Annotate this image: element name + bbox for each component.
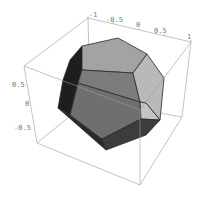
tick-top-4: 1 bbox=[187, 33, 191, 41]
tick-top-3: 0.5 bbox=[154, 27, 167, 35]
top-axis: -1 -0.5 0 0.5 1 bbox=[88, 11, 191, 42]
tick-left-2: -0.5 bbox=[14, 124, 31, 132]
dodecahedron bbox=[58, 38, 164, 150]
tick-top-0: -1 bbox=[89, 11, 97, 19]
tick-top-2: 0 bbox=[136, 21, 140, 29]
tick-top-1: -0.5 bbox=[106, 16, 123, 24]
tick-left-0: 0.5 bbox=[12, 81, 25, 89]
tick-left-1: 0 bbox=[25, 100, 29, 108]
dodecahedron-3d-plot: -1 -0.5 0 0.5 1 0.5 0 -0.5 bbox=[0, 0, 203, 199]
